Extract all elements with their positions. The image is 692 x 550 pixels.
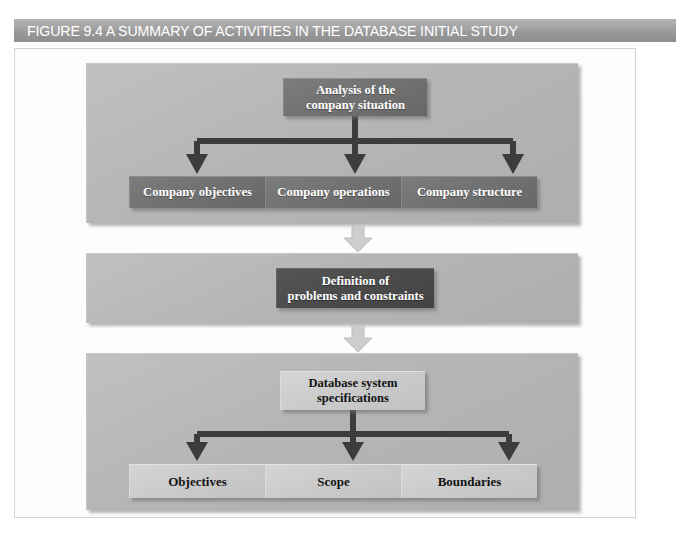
node-label: Analysis of the company situation [306,83,405,113]
node-label: Company operations [277,185,389,200]
node-database-system-specifications[interactable]: Database system specifications [280,371,425,410]
stage-panel-problem-definition: Definition of problems and constraints [86,253,578,323]
node-label: Scope [317,474,350,489]
down-block-arrow-icon [343,325,373,353]
node-label: Company objectives [143,185,252,200]
down-block-arrow-icon [343,225,373,253]
node-analysis-of-company-situation[interactable]: Analysis of the company situation [283,78,427,116]
node-label: Database system specifications [308,376,397,406]
node-company-operations[interactable]: Company operations [265,176,401,208]
figure-caption-text: FIGURE 9.4 A SUMMARY OF ACTIVITIES IN TH… [27,23,518,39]
stage-panel-database-specifications: Database system specifications Objective… [86,353,578,510]
node-label: Definition of problems and constraints [287,274,423,304]
node-scope[interactable]: Scope [265,464,401,498]
node-company-structure[interactable]: Company structure [401,176,537,208]
node-boundaries[interactable]: Boundaries [401,464,537,498]
node-label: Objectives [168,474,226,489]
node-objectives[interactable]: Objectives [129,464,265,498]
diagram-frame: Analysis of the company situation Compan… [14,48,636,518]
node-definition-of-problems-and-constraints[interactable]: Definition of problems and constraints [276,268,434,308]
stage-panel-company-analysis: Analysis of the company situation Compan… [86,63,578,223]
figure-caption-bar: FIGURE 9.4 A SUMMARY OF ACTIVITIES IN TH… [14,19,676,42]
node-label: Boundaries [438,474,502,489]
node-company-objectives[interactable]: Company objectives [129,176,265,208]
node-label: Company structure [417,185,522,200]
